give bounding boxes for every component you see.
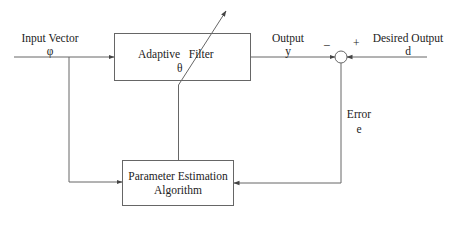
- error-text: Error: [344, 108, 374, 121]
- plus-sign: +: [353, 37, 360, 50]
- input-symbol: φ: [18, 45, 82, 58]
- input-vector-text: Input Vector: [18, 32, 82, 45]
- output-symbol: y: [268, 45, 308, 58]
- error-label: Error e: [344, 108, 374, 136]
- adaptive-filter-label: Adaptive Filter: [138, 48, 214, 61]
- desired-output-text: Desired Output: [368, 32, 448, 45]
- estimator-line1: Parameter Estimation: [122, 170, 234, 183]
- estimator-line2: Algorithm: [122, 184, 234, 197]
- desired-symbol: d: [368, 45, 448, 58]
- summing-junction: [335, 51, 347, 63]
- output-text: Output: [268, 32, 308, 45]
- estimator-label: Parameter Estimation Algorithm: [122, 170, 234, 197]
- desired-output-label: Desired Output d: [368, 32, 448, 58]
- minus-sign: –: [324, 38, 330, 51]
- output-label: Output y: [268, 32, 308, 58]
- theta-label: θ: [177, 62, 183, 75]
- error-symbol: e: [344, 123, 374, 136]
- input-vector-label: Input Vector φ: [18, 32, 82, 58]
